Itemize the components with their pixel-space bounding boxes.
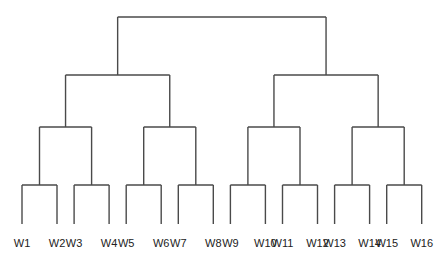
leaf-label-w1: W1	[14, 237, 31, 249]
leaf-labels: W1W2W3W4W5W6W7W8W9W10W11W12W13W14W15W16	[14, 237, 433, 249]
leaf-label-w6: W6	[153, 237, 170, 249]
dendrogram: W1W2W3W4W5W6W7W8W9W10W11W12W13W14W15W16	[0, 0, 444, 266]
dendrogram-links	[22, 17, 422, 224]
leaf-label-w9: W9	[222, 237, 239, 249]
leaf-label-w2: W2	[49, 237, 66, 249]
leaf-label-w13: W13	[323, 237, 346, 249]
leaf-label-w11: W11	[272, 237, 294, 249]
leaf-label-w15: W15	[375, 237, 398, 249]
leaf-label-w16: W16	[410, 237, 433, 249]
leaf-label-w4: W4	[101, 237, 118, 249]
leaf-label-w5: W5	[118, 237, 135, 249]
leaf-label-w8: W8	[205, 237, 222, 249]
leaf-label-w7: W7	[170, 237, 187, 249]
leaf-label-w3: W3	[66, 237, 83, 249]
